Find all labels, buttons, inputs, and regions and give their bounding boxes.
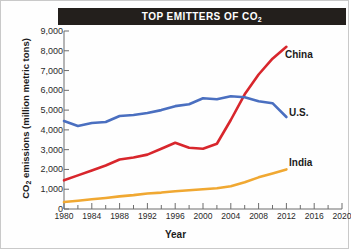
x-axis-tick-labels: 1980198419881992199620002004200820122016…	[1, 211, 350, 225]
chart-title-banner: TOP EMITTERS OF CO2	[58, 8, 346, 25]
y-tick-label: 3,000	[29, 146, 63, 155]
y-tick-label: 8,000	[29, 47, 63, 56]
x-tick-label: 1988	[110, 211, 129, 221]
y-tick-label: 7,000	[29, 67, 63, 76]
chart-title: TOP EMITTERS OF CO2	[142, 11, 262, 22]
x-tick-label: 2012	[277, 211, 296, 221]
x-tick-label: 1996	[166, 211, 185, 221]
x-tick-label: 2016	[305, 211, 324, 221]
series-label-india: India	[289, 157, 312, 168]
y-tick-label: 9,000	[29, 27, 63, 36]
y-tick-label: 6,000	[29, 86, 63, 95]
data-series-group	[64, 47, 286, 202]
y-tick-label: 1,000	[29, 185, 63, 194]
x-tick-label: 2000	[194, 211, 213, 221]
y-tick-label: 5,000	[29, 106, 63, 115]
chart-title-main: TOP EMITTERS OF CO	[142, 11, 258, 22]
x-axis-title: Year	[1, 229, 350, 240]
y-tick-label: 4,000	[29, 126, 63, 135]
x-tick-label: 1992	[138, 211, 157, 221]
x-tick-label: 2008	[249, 211, 268, 221]
series-label-us: U.S.	[289, 107, 308, 118]
chart-title-subscript: 2	[258, 16, 262, 23]
x-tick-label: 2004	[221, 211, 240, 221]
series-line-china	[64, 47, 286, 181]
series-label-china: China	[285, 49, 313, 60]
series-line-india	[64, 169, 286, 202]
series-line-us	[64, 96, 286, 126]
y-tick-label: 2,000	[29, 165, 63, 174]
x-tick-label: 1984	[82, 211, 101, 221]
x-tick-label: 1980	[55, 211, 74, 221]
x-tick-label: 2020	[333, 211, 351, 221]
